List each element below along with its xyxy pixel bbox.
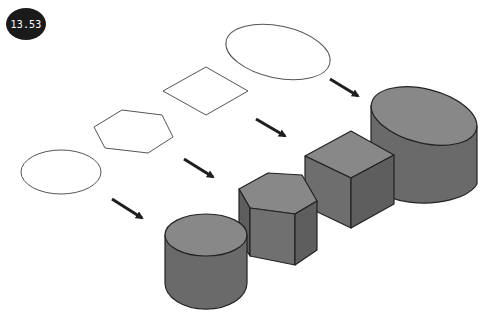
solid-hexagonal-prism <box>239 173 317 265</box>
extrusion-diagram <box>0 0 490 320</box>
outline-shapes <box>21 16 335 194</box>
arrow-icon <box>184 159 213 177</box>
arrow-icon <box>256 119 285 136</box>
arrow-icon <box>112 199 142 218</box>
outline-square <box>163 67 248 115</box>
solid-cylinder <box>165 214 247 309</box>
outline-ellipse <box>221 16 335 89</box>
arrow-icon <box>330 79 358 96</box>
outline-circle <box>21 150 101 194</box>
outline-hexagon <box>94 110 173 153</box>
